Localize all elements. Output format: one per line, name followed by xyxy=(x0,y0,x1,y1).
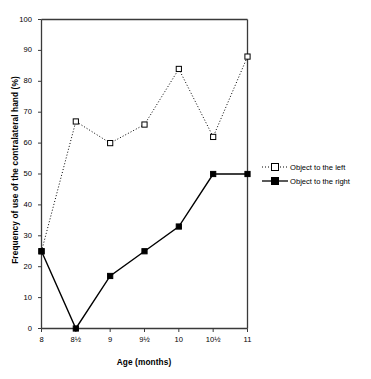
data-point-marker xyxy=(142,122,147,127)
legend-label-left: Object to the left xyxy=(290,163,345,172)
data-point-marker xyxy=(211,171,216,176)
data-point-marker xyxy=(73,326,78,331)
data-point-marker xyxy=(108,273,113,278)
line-chart-figure: Frequency of use of the contralateral ha… xyxy=(0,0,371,379)
data-point-marker xyxy=(39,249,44,254)
legend-label-right: Object to the right xyxy=(290,177,350,186)
legend-item-right: Object to the right xyxy=(262,174,370,188)
data-point-marker xyxy=(245,54,250,59)
data-point-marker xyxy=(176,66,181,71)
legend-item-left: Object to the left xyxy=(262,160,370,174)
data-point-marker xyxy=(211,134,216,139)
data-series xyxy=(39,54,250,331)
data-point-marker xyxy=(108,141,113,146)
data-point-marker xyxy=(73,119,78,124)
data-point-marker xyxy=(176,224,181,229)
data-point-marker xyxy=(142,249,147,254)
legend-swatch-dotted-open-square xyxy=(262,161,288,173)
plot-canvas xyxy=(0,0,371,379)
data-point-marker xyxy=(245,171,250,176)
legend-swatch-solid-filled-square xyxy=(262,175,288,187)
series-line-left xyxy=(42,57,248,252)
chart-legend: Object to the left Object to the right xyxy=(262,160,370,188)
